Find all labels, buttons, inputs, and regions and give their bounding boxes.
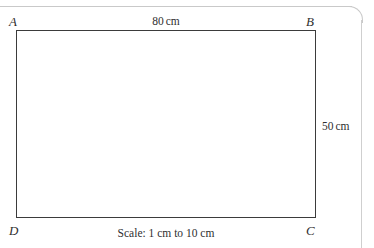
dimension-top-unit: cm — [166, 15, 180, 27]
dimension-right-unit: cm — [336, 120, 350, 132]
dimension-right-value: 50 — [322, 120, 334, 132]
page-edge-right-rule — [361, 20, 362, 248]
scale-caption: Scale: 1 cm to 10 cm — [16, 228, 316, 240]
figure-canvas: A B C D 80cm 50cm Scale: 1 cm to 10 cm — [0, 0, 374, 248]
dimension-top-value: 80 — [152, 15, 164, 27]
page-edge-top-rule — [0, 6, 352, 7]
dimension-label-top: 80cm — [16, 16, 316, 28]
dimension-label-right: 50cm — [322, 121, 350, 133]
rectangle-abcd — [16, 30, 316, 218]
